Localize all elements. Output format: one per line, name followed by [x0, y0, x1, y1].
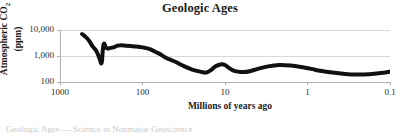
cutoff-caption-text: Geologic Ages — Science in Nonmajor Geos…: [6, 124, 306, 133]
y-axis-title-line2: (ppm): [13, 27, 23, 52]
x-tick-label: 1000: [35, 87, 85, 97]
data-series-line: [82, 34, 390, 74]
x-axis-title: Millions of years ago: [60, 101, 400, 111]
chart-figure: Geologic Ages 10,0001,000100 10001001010…: [0, 0, 400, 137]
x-tick-label: 0.1: [365, 87, 400, 97]
x-tick-label: 10: [200, 87, 250, 97]
chart-plot-area: [0, 0, 400, 137]
x-tick-label: 100: [118, 87, 168, 97]
y-axis-title: Atmospheric CO2 (ppm): [0, 0, 21, 85]
data-series-group: [82, 34, 390, 74]
tick-marks-group: [57, 30, 390, 85]
y-axis-title-line1: Atmospheric CO: [0, 6, 9, 75]
x-tick-label: 1: [283, 87, 333, 97]
y-axis-title-subscript: 2: [4, 3, 12, 7]
